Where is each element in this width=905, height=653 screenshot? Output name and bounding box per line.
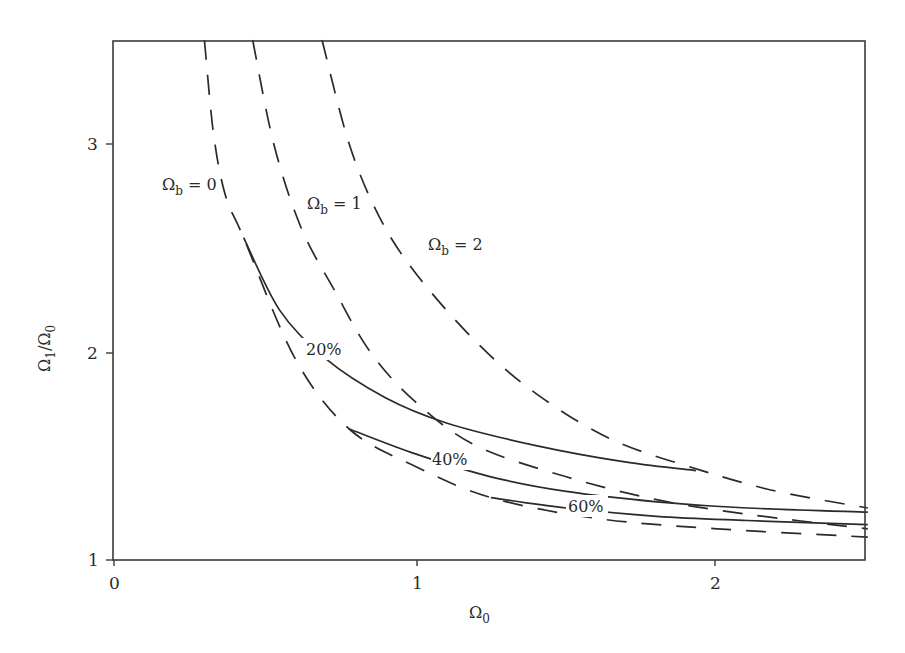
y-tick-label-3: 3 (87, 134, 98, 154)
plot-frame (113, 41, 865, 560)
curve-40 (349, 429, 868, 512)
y-tick-label-1: 1 (88, 550, 99, 570)
x-tick-label-0: 0 (109, 573, 120, 593)
x-axis-title: Ω0 (469, 603, 490, 626)
curve-b-0 (204, 40, 867, 537)
chart-canvas: 20% 40% 60% Ωb = 0 Ωb = 1 Ωb = 2 0 1 2 1… (0, 0, 905, 653)
x-tick-label-2: 2 (710, 573, 721, 593)
label-60pct: 60% (568, 497, 604, 516)
curves (204, 40, 867, 537)
label-20pct: 20% (306, 340, 342, 359)
label-omega-b-1: Ωb = 1 (307, 194, 362, 217)
curve-b-1 (253, 40, 868, 529)
label-40pct: 40% (432, 450, 468, 469)
x-tick-label-1: 1 (412, 573, 423, 593)
curve-b-2 (322, 40, 868, 508)
y-tick-label-2: 2 (87, 343, 98, 363)
y-axis-title: Ω1/Ω0 (35, 325, 58, 372)
label-omega-b-2: Ωb = 2 (428, 235, 483, 258)
label-omega-b-0: Ωb = 0 (162, 175, 217, 198)
